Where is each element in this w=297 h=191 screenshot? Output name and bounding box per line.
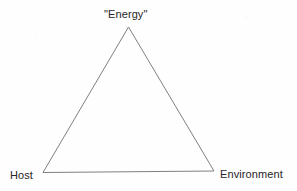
- triangle-edge-left: [43, 27, 129, 173]
- triangle-shape: [0, 0, 297, 191]
- triangle-edge-bottom: [43, 171, 214, 173]
- vertex-label-host: Host: [10, 169, 33, 181]
- vertex-label-energy: "Energy": [104, 8, 147, 20]
- vertex-label-environment: Environment: [220, 168, 283, 180]
- triangle-edge-right: [129, 27, 215, 171]
- diagram-canvas: "Energy" Host Environment: [0, 0, 297, 191]
